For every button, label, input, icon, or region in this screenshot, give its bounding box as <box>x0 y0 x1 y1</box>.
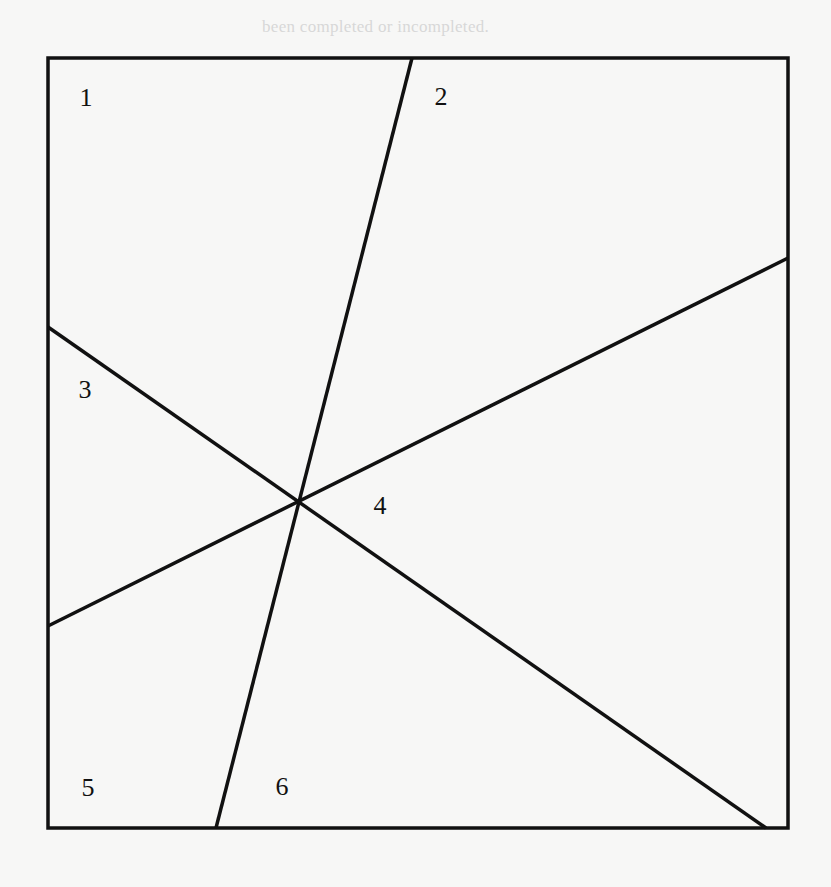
partitioned-square-diagram <box>0 0 831 887</box>
region-label-5: 5 <box>82 775 95 801</box>
region-label-6: 6 <box>276 774 289 800</box>
region-label-2: 2 <box>435 84 448 110</box>
region-label-1: 1 <box>80 85 93 111</box>
region-label-4: 4 <box>374 493 387 519</box>
rising-line <box>48 258 788 626</box>
falling-line <box>48 327 766 828</box>
region-label-3: 3 <box>79 377 92 403</box>
steep-line <box>216 58 412 828</box>
